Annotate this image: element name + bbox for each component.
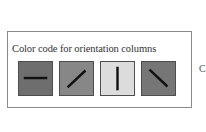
oblique-135-bar-icon (142, 62, 175, 95)
swatch-vertical (100, 61, 135, 96)
horizontal-bar-icon (19, 62, 52, 95)
legend-title: Color code for orientation columns (12, 43, 188, 54)
swatch-horizontal (18, 61, 53, 96)
vertical-bar-icon (101, 62, 134, 95)
swatch-oblique-135 (141, 61, 176, 96)
cropped-edge-text: C (199, 63, 206, 74)
oblique-45-bar-icon (60, 62, 93, 95)
swatch-oblique-45 (59, 61, 94, 96)
